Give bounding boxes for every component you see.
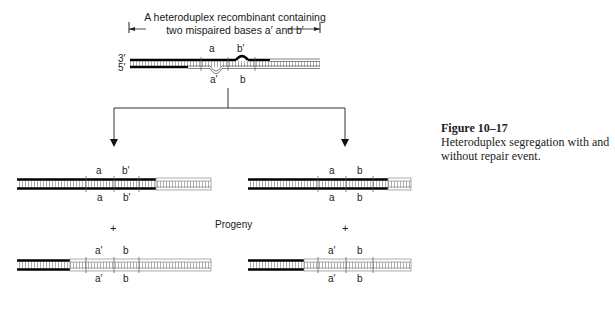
mark-label: a bbox=[329, 192, 335, 203]
strand-label-5prime: 5′ bbox=[118, 62, 125, 73]
mark-label: a′ bbox=[328, 273, 335, 284]
left-upper-molecule bbox=[17, 176, 211, 192]
header-line-2: two mispaired bases a′ and b′ bbox=[140, 24, 330, 37]
mark-label: a′ bbox=[95, 245, 102, 256]
mark-label: a′ bbox=[328, 245, 335, 256]
mark-label: b bbox=[240, 74, 246, 85]
mark-label: b bbox=[357, 245, 363, 256]
left-lower-molecule bbox=[17, 257, 211, 273]
mark-label: b bbox=[123, 273, 129, 284]
mark-label: a bbox=[209, 43, 215, 54]
mark-label: a′ bbox=[95, 273, 102, 284]
mark-label: b′ bbox=[237, 43, 244, 54]
progeny-label: Progeny bbox=[215, 219, 252, 230]
mark-label: a′ bbox=[210, 74, 217, 85]
heteroduplex-header: A heteroduplex recombinant containing tw… bbox=[140, 11, 330, 37]
mark-label: b bbox=[357, 192, 363, 203]
branch-arrows bbox=[110, 88, 349, 147]
right-lower-molecule bbox=[248, 257, 411, 273]
plus-sign-left: + bbox=[110, 222, 116, 234]
right-upper-molecule bbox=[248, 176, 411, 192]
figure-caption-text: Heteroduplex segregation with and withou… bbox=[441, 135, 615, 163]
header-line-1: A heteroduplex recombinant containing bbox=[140, 11, 330, 24]
mark-label: a bbox=[96, 165, 102, 176]
figure-caption: Figure 10–17 Heteroduplex segregation wi… bbox=[441, 121, 615, 163]
figure-number: Figure 10–17 bbox=[441, 121, 615, 135]
top-heteroduplex-molecule bbox=[130, 56, 320, 74]
mark-label: a bbox=[329, 165, 335, 176]
plus-sign-right: + bbox=[342, 222, 348, 234]
mark-label: b bbox=[357, 273, 363, 284]
mark-label: b′ bbox=[123, 192, 130, 203]
mark-label: b bbox=[123, 245, 129, 256]
mark-label: a bbox=[97, 192, 103, 203]
mark-label: b bbox=[357, 165, 363, 176]
mark-label: b′ bbox=[122, 165, 129, 176]
